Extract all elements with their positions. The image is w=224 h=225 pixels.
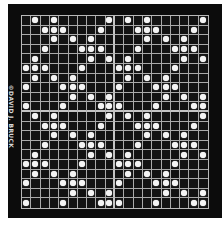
board-cell[interactable] [87,74,96,84]
board-cell[interactable] [189,102,198,112]
board-cell[interactable] [106,35,115,45]
board-cell[interactable] [143,35,152,45]
board-cell[interactable] [143,74,152,84]
board-cell[interactable] [31,198,40,208]
board-cell[interactable] [22,26,31,36]
board-cell[interactable] [115,112,124,122]
board-cell[interactable] [31,74,40,84]
board-cell[interactable] [199,131,208,141]
board-cell[interactable] [115,160,124,170]
board-cell[interactable] [162,160,171,170]
board-cell[interactable] [41,26,50,36]
board-cell[interactable] [124,64,133,74]
board-cell[interactable] [96,26,105,36]
board-cell[interactable] [199,64,208,74]
board-cell[interactable] [115,83,124,93]
board-cell[interactable] [115,179,124,189]
board-cell[interactable] [31,45,40,55]
board-cell[interactable] [69,54,78,64]
board-cell[interactable] [143,93,152,103]
board-cell[interactable] [41,198,50,208]
board-cell[interactable] [180,160,189,170]
board-cell[interactable] [143,112,152,122]
board-cell[interactable] [171,198,180,208]
board-cell[interactable] [134,54,143,64]
board-cell[interactable] [87,160,96,170]
board-cell[interactable] [189,198,198,208]
board-cell[interactable] [171,26,180,36]
board-cell[interactable] [189,45,198,55]
board-cell[interactable] [106,198,115,208]
board-cell[interactable] [134,122,143,132]
board-cell[interactable] [189,179,198,189]
board-cell[interactable] [41,64,50,74]
board-cell[interactable] [115,54,124,64]
board-cell[interactable] [50,45,59,55]
board-cell[interactable] [106,74,115,84]
board-cell[interactable] [189,93,198,103]
board-cell[interactable] [152,170,161,180]
board-cell[interactable] [31,26,40,36]
board-cell[interactable] [143,160,152,170]
board-cell[interactable] [143,179,152,189]
board-cell[interactable] [162,83,171,93]
board-cell[interactable] [96,54,105,64]
board-cell[interactable] [96,131,105,141]
board-cell[interactable] [69,35,78,45]
board-cell[interactable] [171,131,180,141]
board-cell[interactable] [180,102,189,112]
board-cell[interactable] [199,93,208,103]
board-cell[interactable] [50,179,59,189]
board-cell[interactable] [115,64,124,74]
board-cell[interactable] [106,179,115,189]
board-cell[interactable] [115,150,124,160]
board-cell[interactable] [162,16,171,26]
board-cell[interactable] [106,16,115,26]
board-cell[interactable] [106,112,115,122]
board-cell[interactable] [162,150,171,160]
board-cell[interactable] [162,170,171,180]
board-cell[interactable] [199,150,208,160]
board-cell[interactable] [180,83,189,93]
board-cell[interactable] [171,122,180,132]
board-cell[interactable] [69,170,78,180]
board-cell[interactable] [143,54,152,64]
board-cell[interactable] [41,112,50,122]
board-cell[interactable] [143,83,152,93]
board-cell[interactable] [41,45,50,55]
board-cell[interactable] [69,74,78,84]
board-cell[interactable] [22,160,31,170]
board-cell[interactable] [162,45,171,55]
board-cell[interactable] [41,16,50,26]
board-cell[interactable] [189,74,198,84]
board-cell[interactable] [41,141,50,151]
board-cell[interactable] [50,16,59,26]
board-cell[interactable] [96,141,105,151]
board-cell[interactable] [162,122,171,132]
board-cell[interactable] [31,150,40,160]
board-cell[interactable] [96,189,105,199]
board-cell[interactable] [162,64,171,74]
board-cell[interactable] [59,54,68,64]
board-cell[interactable] [69,179,78,189]
board-cell[interactable] [50,26,59,36]
board-cell[interactable] [31,179,40,189]
board-cell[interactable] [50,112,59,122]
board-cell[interactable] [22,74,31,84]
board-cell[interactable] [115,131,124,141]
board-cell[interactable] [199,83,208,93]
board-cell[interactable] [59,16,68,26]
board-cell[interactable] [59,83,68,93]
board-cell[interactable] [69,189,78,199]
board-cell[interactable] [31,122,40,132]
board-cell[interactable] [152,198,161,208]
board-cell[interactable] [143,122,152,132]
board-cell[interactable] [50,93,59,103]
board-cell[interactable] [41,93,50,103]
board-cell[interactable] [59,170,68,180]
board-cell[interactable] [162,198,171,208]
board-cell[interactable] [22,16,31,26]
board-cell[interactable] [180,26,189,36]
board-cell[interactable] [50,160,59,170]
board-cell[interactable] [134,160,143,170]
